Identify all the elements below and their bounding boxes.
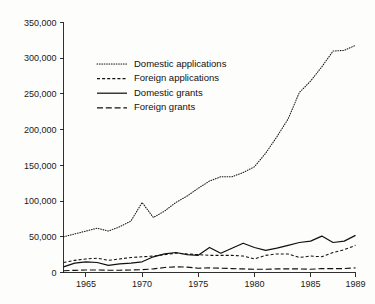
legend-label: Domestic applications bbox=[134, 58, 227, 69]
x-axis-tick-group: 196519701975198019851989 bbox=[76, 273, 366, 289]
y-tick-label: 150,000 bbox=[24, 161, 57, 171]
x-tick-label: 1970 bbox=[132, 279, 152, 289]
y-tick-label: 300,000 bbox=[24, 53, 57, 63]
y-tick-label: 250,000 bbox=[24, 89, 57, 99]
x-tick-label: 1965 bbox=[76, 279, 96, 289]
legend-label: Domestic grants bbox=[134, 87, 203, 98]
series-line-domestic-grants bbox=[64, 235, 356, 266]
legend-label: Foreign grants bbox=[134, 101, 196, 112]
x-tick-label: 1975 bbox=[188, 279, 208, 289]
y-axis-tick-group: 050,000100,000150,000200,000250,000300,0… bbox=[24, 18, 64, 278]
x-tick-label: 1985 bbox=[301, 279, 321, 289]
x-tick-label: 1989 bbox=[345, 279, 365, 289]
legend-label: Foreign applications bbox=[134, 72, 219, 83]
line-chart: 050,000100,000150,000200,000250,000300,0… bbox=[0, 0, 375, 304]
y-tick-label: 0 bbox=[51, 268, 56, 278]
y-tick-label: 50,000 bbox=[29, 232, 57, 242]
chart-canvas: 050,000100,000150,000200,000250,000300,0… bbox=[0, 0, 375, 304]
chart-legend: Domestic applicationsForeign application… bbox=[97, 58, 227, 113]
y-tick-label: 200,000 bbox=[24, 125, 57, 135]
y-tick-label: 350,000 bbox=[24, 18, 57, 28]
y-tick-label: 100,000 bbox=[24, 196, 57, 206]
series-line-foreign-grants bbox=[64, 267, 356, 271]
x-tick-label: 1980 bbox=[244, 279, 264, 289]
